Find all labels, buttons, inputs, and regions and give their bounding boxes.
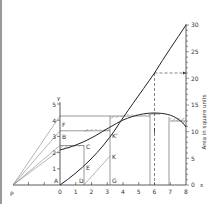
svg-text:1: 1 xyxy=(74,188,78,195)
svg-text:0: 0 xyxy=(191,181,195,188)
point-label-P: P xyxy=(10,190,14,197)
svg-text:8: 8 xyxy=(184,188,188,195)
point-label-G: G xyxy=(112,177,117,184)
integration-diagram: P A B F C D E G K K' y 1 2 3 4 5 0 1 2 3… xyxy=(0,0,218,204)
arrow-marker-21 xyxy=(183,72,186,75)
point-label-D: D xyxy=(79,177,84,184)
point-label-B: B xyxy=(62,133,66,140)
svg-text:15: 15 xyxy=(191,101,199,108)
svg-text:25: 25 xyxy=(191,48,199,55)
svg-text:2: 2 xyxy=(90,188,94,195)
integral-curve xyxy=(60,25,186,185)
area-axis-ticks xyxy=(186,25,189,185)
svg-text:0: 0 xyxy=(58,188,62,195)
svg-text:5: 5 xyxy=(191,155,195,162)
area-tick-labels: 0 5 10 15 20 25 30 xyxy=(191,21,199,188)
point-label-A: A xyxy=(54,177,59,184)
svg-text:4: 4 xyxy=(121,188,125,195)
point-label-K-prime: K' xyxy=(112,132,118,139)
svg-text:20: 20 xyxy=(191,75,199,82)
svg-text:7: 7 xyxy=(168,188,172,195)
point-label-E: E xyxy=(86,164,90,171)
area-axis-label: Area in square units xyxy=(201,94,208,149)
svg-text:3: 3 xyxy=(52,133,56,140)
diagram-canvas: P A B F C D E G K K' y 1 2 3 4 5 0 1 2 3… xyxy=(0,0,218,204)
left-border xyxy=(0,0,2,204)
svg-text:30: 30 xyxy=(191,21,199,28)
y-tick-labels: 1 2 3 4 5 xyxy=(52,101,56,172)
svg-text:4: 4 xyxy=(52,117,56,124)
x-axis-ticks xyxy=(29,182,171,185)
point-label-F: F xyxy=(62,121,66,128)
point-label-K: K xyxy=(112,153,117,160)
svg-text:6: 6 xyxy=(153,188,157,195)
svg-text:5: 5 xyxy=(52,101,56,108)
x-axis-label: x xyxy=(200,182,204,188)
y-axis-label: y xyxy=(57,95,61,102)
x-tick-labels: 0 1 2 3 4 5 6 7 8 xyxy=(58,188,188,195)
point-label-C: C xyxy=(86,143,90,150)
svg-text:3: 3 xyxy=(105,188,109,195)
dashed-projection xyxy=(155,73,187,185)
svg-text:5: 5 xyxy=(137,188,141,195)
svg-text:2: 2 xyxy=(52,149,56,156)
y-axis-ticks xyxy=(57,104,60,169)
svg-text:10: 10 xyxy=(191,128,199,135)
ordinate-lines xyxy=(84,114,169,185)
svg-text:1: 1 xyxy=(52,165,56,172)
